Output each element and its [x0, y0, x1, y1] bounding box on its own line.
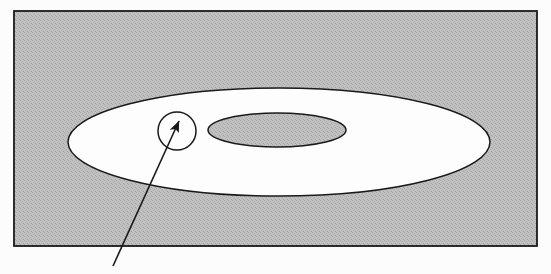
- diagram-canvas: [0, 0, 551, 274]
- figure-root: [0, 0, 551, 274]
- inner-ellipse: [208, 113, 346, 147]
- callout-circle: [158, 112, 196, 150]
